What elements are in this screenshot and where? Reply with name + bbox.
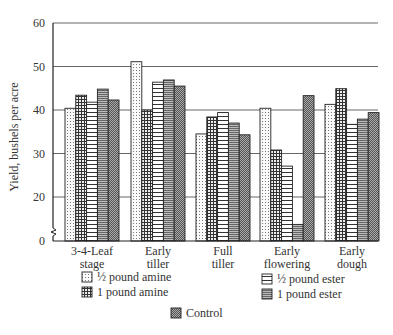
bar — [336, 89, 347, 241]
axes: 02030405060Yield, bushels per acre3-4-Le… — [7, 16, 378, 271]
bar — [131, 62, 142, 241]
x-tick-label: stage — [80, 257, 105, 271]
x-tick-label: Full — [213, 244, 233, 258]
legend-swatch — [262, 274, 272, 284]
x-tick-label: Early — [274, 244, 300, 258]
bar-chart: 02030405060Yield, bushels per acre3-4-Le… — [0, 0, 393, 335]
bar — [163, 80, 174, 241]
x-tick-label: tiller — [212, 257, 235, 271]
legend-label: ½ pound amine — [97, 270, 171, 284]
legend: ½ pound amine1 pound amine½ pound ester1… — [82, 270, 345, 320]
legend-label: 1 pound amine — [97, 285, 168, 299]
bar — [357, 119, 368, 241]
y-tick-label: 50 — [33, 60, 45, 74]
bar — [260, 108, 271, 241]
x-tick-label: flowering — [264, 257, 311, 271]
bar — [218, 113, 229, 241]
bar — [142, 110, 153, 241]
legend-label: ½ pound ester — [277, 272, 345, 286]
bar — [108, 100, 119, 241]
y-tick-label: 60 — [33, 16, 45, 30]
bar — [87, 102, 98, 241]
bar — [292, 224, 303, 241]
bar — [271, 150, 282, 241]
legend-swatch — [262, 289, 272, 299]
y-tick-label: 30 — [33, 147, 45, 161]
bar — [65, 108, 76, 241]
bar — [97, 89, 108, 241]
bar — [153, 82, 164, 241]
bar — [239, 135, 250, 241]
bar — [368, 113, 379, 241]
x-tick-label: tiller — [147, 257, 170, 271]
axis-break-icon — [51, 228, 56, 236]
legend-label: 1 pound ester — [277, 287, 342, 301]
bar — [303, 96, 314, 241]
bar — [196, 134, 207, 241]
bar — [282, 166, 293, 241]
bar — [347, 124, 358, 241]
bar — [325, 104, 336, 241]
y-tick-label: 20 — [33, 190, 45, 204]
chart-canvas: 02030405060Yield, bushels per acre3-4-Le… — [0, 0, 393, 335]
y-tick-label: 40 — [33, 103, 45, 117]
bar — [228, 123, 239, 241]
legend-swatch — [171, 308, 181, 318]
x-tick-label: dough — [337, 257, 367, 271]
legend-label: Control — [186, 306, 223, 320]
y-tick-label: 0 — [39, 234, 45, 248]
x-tick-label: 3-4-Leaf — [71, 244, 113, 258]
x-tick-label: Early — [145, 244, 171, 258]
legend-swatch — [82, 272, 92, 282]
bar — [207, 117, 218, 241]
bar — [76, 95, 87, 241]
y-axis-title: Yield, bushels per acre — [7, 82, 21, 191]
legend-swatch — [82, 287, 92, 297]
bars — [65, 62, 379, 241]
x-tick-label: Early — [339, 244, 365, 258]
bar — [174, 86, 185, 241]
